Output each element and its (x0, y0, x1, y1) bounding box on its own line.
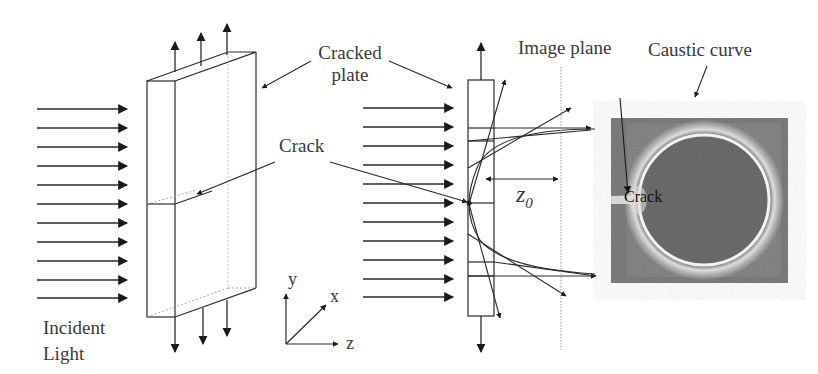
cracked-plate-pointer-left (262, 61, 311, 88)
incident-rays-left (37, 109, 127, 298)
incident-light-label-line1: Incident (43, 318, 105, 337)
caustics-diagram: Incident Light Cracked plate Crack Image… (0, 0, 818, 374)
crack-pointer-side (330, 162, 467, 202)
axis-x-label: x (330, 287, 339, 305)
image-plane-label: Image plane (518, 38, 611, 57)
cracked-plate-label-line1: Cracked (310, 43, 390, 62)
crack-image-label: Crack (624, 189, 662, 205)
crack-tip (467, 201, 472, 206)
z0-label: z0 (516, 182, 533, 211)
z0-subscript: 0 (525, 195, 533, 211)
tension-arrows-left (175, 24, 227, 352)
cracked-plate-pointer-right (389, 61, 452, 88)
crack-pointer-left (197, 162, 275, 194)
cracked-plate-label-line2: plate (310, 65, 390, 84)
incident-light-label-line2: Light (43, 344, 84, 363)
cracked-plate-3d (147, 52, 256, 317)
z0-symbol: z (516, 181, 525, 207)
caustic-curve-label: Caustic curve (648, 40, 752, 59)
crack-label: Crack (279, 136, 324, 155)
caustic-curve-pointer (695, 66, 707, 97)
incident-rays-right (363, 108, 453, 297)
axis-z-label: z (346, 334, 354, 352)
axis-y-label: y (288, 270, 297, 288)
